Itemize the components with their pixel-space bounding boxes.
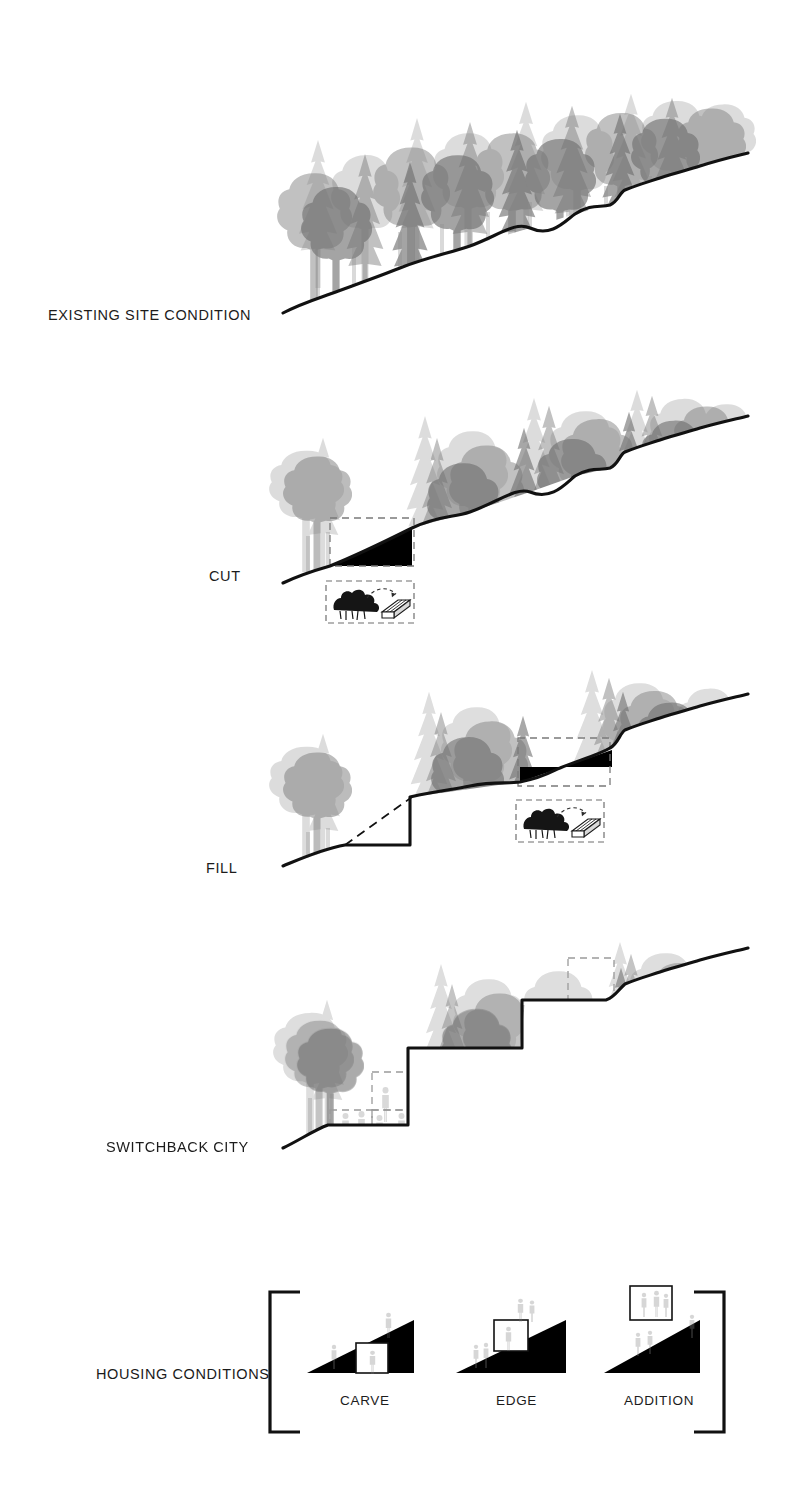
panel-cut: CUT	[0, 340, 793, 640]
panel-label-cut: CUT	[209, 568, 241, 584]
legend-title: HOUSING CONDITIONS	[96, 1366, 270, 1382]
original-grade-dashed-line	[345, 797, 412, 845]
legend-caption-edge: EDGE	[496, 1393, 537, 1408]
bracket-left	[270, 1292, 300, 1432]
legend-housing-conditions: HOUSING CONDITIONS CARVE EDGE ADDITION	[0, 1270, 793, 1460]
cut-section	[0, 340, 793, 640]
panel-label-existing: EXISTING SITE CONDITION	[48, 307, 251, 323]
housing-condition-carve	[307, 1313, 414, 1374]
housing-conditions-graphics	[0, 1270, 793, 1460]
diagram-sheet: EXISTING SITE CONDITION	[0, 0, 793, 1508]
panel-existing-site-condition: EXISTING SITE CONDITION	[0, 0, 793, 340]
housing-condition-edge	[456, 1299, 566, 1373]
existing-site-section	[0, 0, 793, 340]
addition-slope	[604, 1320, 700, 1373]
panel-switchback-city: SWITCHBACK CITY	[0, 900, 793, 1190]
housing-condition-addition	[604, 1286, 700, 1373]
panel-fill: FILL	[0, 640, 793, 940]
fill-section	[0, 640, 793, 940]
panel-label-switchback: SWITCHBACK CITY	[106, 1139, 249, 1155]
panel-label-fill: FILL	[206, 860, 237, 876]
legend-caption-addition: ADDITION	[624, 1393, 694, 1408]
legend-caption-carve: CARVE	[340, 1393, 390, 1408]
